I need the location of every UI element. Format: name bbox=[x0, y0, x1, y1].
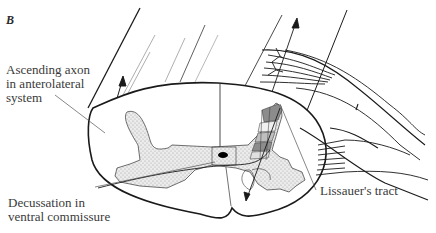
central-canal bbox=[218, 152, 228, 158]
ventral-root-fibers bbox=[316, 140, 428, 180]
lissauer-arrow bbox=[268, 18, 299, 92]
label-lissauer-tract: Lissauer's tract bbox=[320, 184, 398, 198]
label-decussation: Decussation in ventral commissure bbox=[8, 196, 110, 224]
label-ascending-axon: Ascending axon in anterolateral system bbox=[6, 63, 90, 105]
